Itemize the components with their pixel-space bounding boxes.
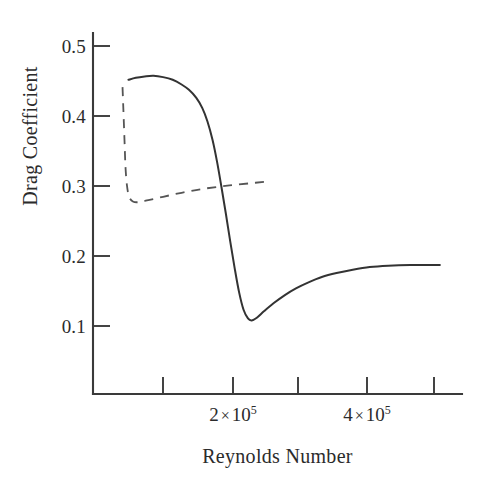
y-tick-label-wrap-5: 0.1 [0,317,86,336]
x-tick-exponent: 5 [251,403,257,417]
x-tick-base: 10 [366,404,385,425]
x-axis-title: Reynolds Number [93,444,462,468]
y-tick-label: 0.4 [62,107,86,126]
y-tick-label: 0.5 [62,37,86,56]
x-tick-exponent: 5 [385,403,391,417]
y-tick-label: 0.2 [62,247,86,266]
x-tick-label-2e5: 2×105 [173,404,293,426]
drag-coefficient-chart: 0.5 0.4 0.3 0.2 0.1 2×105 4×105 Reynolds… [0,0,482,482]
multiplication-sign: × [353,407,366,424]
multiplication-sign: × [219,407,232,424]
x-tick-mantissa: 4 [343,404,353,425]
y-tick-label-wrap-3: 0.3 [0,177,86,196]
x-axis-ticks [163,377,434,394]
rough-sphere-drag-curve [123,87,269,202]
x-tick-base: 10 [232,404,251,425]
y-tick-label-wrap-1: 0.5 [0,37,86,56]
y-axis-ticks [93,46,110,326]
y-tick-label: 0.1 [62,317,86,336]
y-tick-label: 0.3 [62,177,86,196]
y-axis-title: Drag Coefficient [19,46,41,226]
smooth-sphere-drag-curve [128,76,439,321]
y-tick-label-wrap-4: 0.2 [0,247,86,266]
x-tick-mantissa: 2 [209,404,219,425]
x-tick-label-4e5: 4×105 [307,404,427,426]
y-tick-label-wrap-2: 0.4 [0,107,86,126]
